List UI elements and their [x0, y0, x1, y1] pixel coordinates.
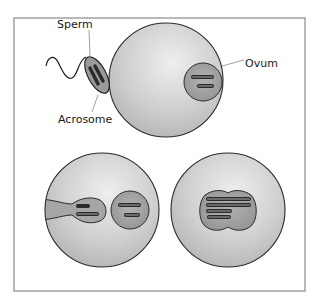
- ovum-nucleus: [184, 63, 222, 101]
- label-sperm: Sperm: [57, 18, 93, 31]
- label-acrosome: Acrosome: [58, 113, 113, 126]
- panel-fusion: [171, 153, 285, 267]
- label-ovum: Ovum: [245, 57, 278, 70]
- ovum-nucleus: [111, 191, 149, 229]
- fertilization-diagram: Sperm Acrosome Ovum: [0, 0, 314, 297]
